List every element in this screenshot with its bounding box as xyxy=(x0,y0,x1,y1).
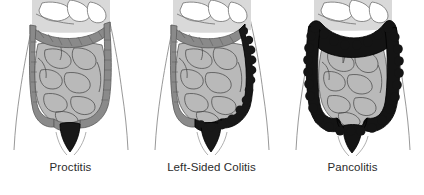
small-intestine xyxy=(319,46,388,127)
panel-pancolitis: Pancolitis xyxy=(282,0,423,195)
segment-rectum-inflamed xyxy=(60,123,80,153)
upper-abdominal-organs xyxy=(314,0,392,31)
anatomy-illustration-proctitis xyxy=(0,0,141,158)
panel-label-pancolitis: Pancolitis xyxy=(282,160,423,174)
panel-label-proctitis: Proctitis xyxy=(0,160,141,174)
panel-left-sided-colitis: Left-Sided Colitis xyxy=(141,0,282,195)
upper-abdominal-organs xyxy=(32,0,110,33)
anatomy-illustration-left-sided-colitis xyxy=(141,0,282,158)
upper-abdominal-organs xyxy=(173,0,251,33)
anatomy-illustration-pancolitis xyxy=(282,0,423,158)
panel-label-left-sided-colitis: Left-Sided Colitis xyxy=(141,160,282,174)
colitis-extent-figure: Proctitis xyxy=(0,0,424,195)
panel-proctitis: Proctitis xyxy=(0,0,141,195)
